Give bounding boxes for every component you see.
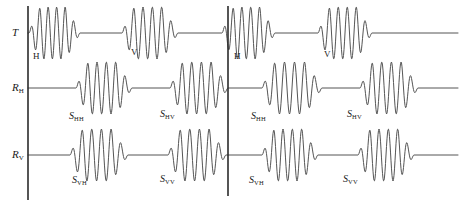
axis-label-subscript: V (19, 154, 24, 162)
scatter-label-shv-cycle1: SHV (160, 109, 175, 119)
waveform-traces (0, 0, 460, 208)
radar-pulse-timing-diagram: TRHRVHVHVSHHSHVSHHSHVSVHSVVSVHSVV (0, 0, 460, 208)
axis-label-subscript: H (19, 87, 24, 95)
scatter-label-subscript: HH (74, 115, 84, 122)
scatter-label-subscript: HV (165, 113, 175, 120)
scatter-label-svv-cycle1: SVV (160, 174, 175, 184)
scatter-label-subscript: HH (256, 115, 266, 122)
waveform-t (28, 7, 458, 59)
polarization-mark-h-cycle1: H (33, 52, 40, 61)
scatter-label-subscript: VH (254, 179, 264, 186)
polarization-mark-v-cycle2: V (324, 50, 331, 59)
scatter-label-shh-cycle1: SHH (69, 111, 84, 121)
axis-label-base: R (12, 81, 19, 93)
scatter-label-svh-cycle1: SVH (72, 175, 87, 185)
waveform-r-h (28, 62, 458, 114)
scatter-label-subscript: VV (348, 178, 358, 185)
axis-label-receive-h: RH (12, 82, 24, 93)
scatter-label-subscript: VH (77, 179, 87, 186)
scatter-label-subscript: VV (165, 178, 175, 185)
polarization-mark-v-cycle1: V (131, 48, 138, 57)
scatter-label-shv-cycle2: SHV (347, 109, 362, 119)
axis-label-base: T (12, 26, 18, 38)
axis-label-transmit: T (12, 27, 18, 38)
scatter-label-svv-cycle2: SVV (343, 174, 358, 184)
polarization-mark-h-cycle2: H (234, 52, 241, 61)
waveform-r-v (28, 129, 458, 181)
axis-label-base: R (12, 148, 19, 160)
scatter-label-subscript: HV (352, 113, 362, 120)
scatter-label-svh-cycle2: SVH (249, 175, 264, 185)
scatter-label-shh-cycle2: SHH (251, 111, 266, 121)
axis-label-receive-v: RV (12, 149, 24, 160)
